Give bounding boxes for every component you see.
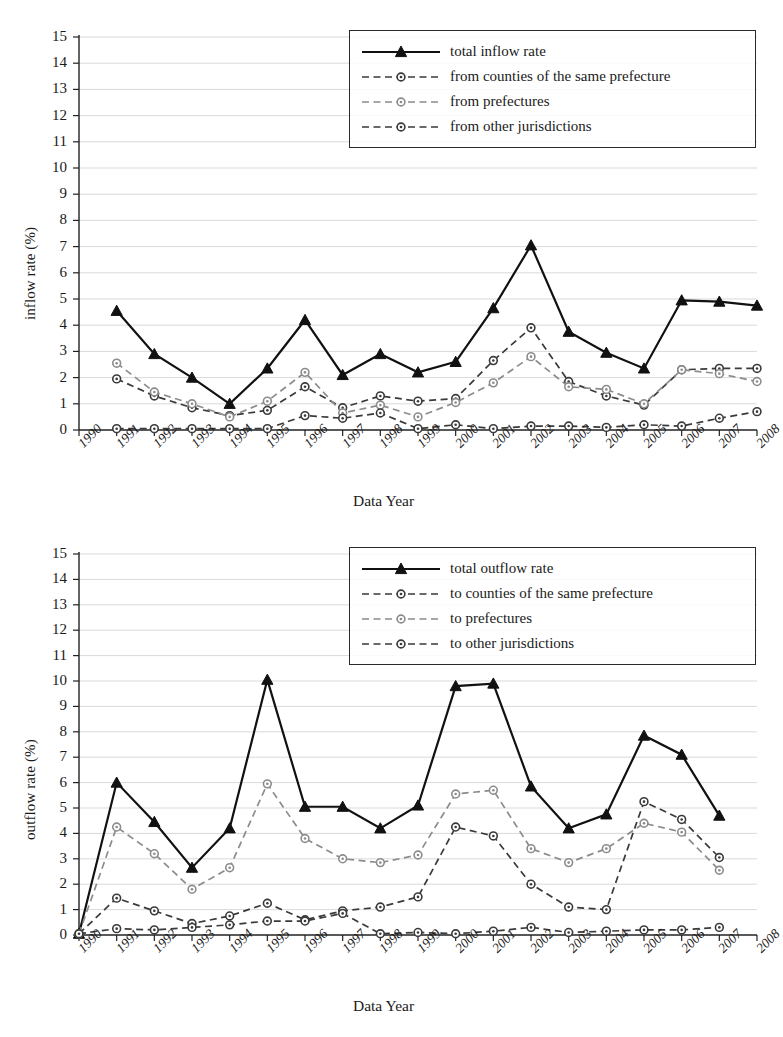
legend-inflow: total inflow ratefrom counties of the sa… xyxy=(349,30,756,148)
y-tick-label: 11 xyxy=(33,648,67,663)
y-tick-label: 0 xyxy=(33,422,67,437)
x-axis-title: Data Year xyxy=(0,997,767,1015)
y-tick-label: 3 xyxy=(33,343,67,358)
series-inflow-1 xyxy=(113,324,761,420)
legend-item: from other jurisdictions xyxy=(358,114,755,139)
y-tick-label: 2 xyxy=(33,370,67,385)
y-axis-title: inflow rate (%) xyxy=(22,227,39,320)
y-tick-label: 9 xyxy=(33,186,67,201)
legend-item-label: to other jurisdictions xyxy=(444,635,574,652)
y-tick-label: 15 xyxy=(33,546,67,561)
y-tick-label: 10 xyxy=(33,673,67,688)
y-tick-label: 8 xyxy=(33,724,67,739)
y-tick-label: 13 xyxy=(33,597,67,612)
legend-item: from prefectures xyxy=(358,89,755,114)
legend-item: from counties of the same prefecture xyxy=(358,64,755,89)
legend-item-label: to counties of the same prefecture xyxy=(444,585,653,602)
y-tick-label: 1 xyxy=(33,902,67,917)
legend-marker-icon xyxy=(358,42,444,62)
legend-item-label: from counties of the same prefecture xyxy=(444,68,670,85)
y-tick-label: 8 xyxy=(33,212,67,227)
legend-item: to prefectures xyxy=(358,606,755,631)
legend-item-label: to prefectures xyxy=(444,610,532,627)
y-tick-label: 3 xyxy=(33,851,67,866)
chart-panel-inflow: 0123456789101112131415199019911992199319… xyxy=(0,0,767,520)
series-outflow-1 xyxy=(75,798,723,938)
y-tick-label: 1 xyxy=(33,396,67,411)
legend-marker-icon xyxy=(358,117,444,137)
legend-item: total outflow rate xyxy=(358,556,755,581)
legend-item-label: from other jurisdictions xyxy=(444,118,592,135)
legend-marker-icon xyxy=(358,92,444,112)
legend-outflow: total outflow rateto counties of the sam… xyxy=(349,547,756,665)
legend-marker-icon xyxy=(358,584,444,604)
legend-marker-icon xyxy=(358,559,444,579)
y-tick-label: 12 xyxy=(33,622,67,637)
y-tick-label: 12 xyxy=(33,108,67,123)
legend-marker-icon xyxy=(358,67,444,87)
y-tick-label: 14 xyxy=(33,571,67,586)
legend-item: to counties of the same prefecture xyxy=(358,581,755,606)
legend-marker-icon xyxy=(358,634,444,654)
legend-marker-icon xyxy=(358,609,444,629)
y-axis-title: outflow rate (%) xyxy=(22,739,39,840)
legend-item: to other jurisdictions xyxy=(358,631,755,656)
chart-panel-outflow: 0123456789101112131415199019911992199319… xyxy=(0,517,767,1037)
y-tick-label: 15 xyxy=(33,29,67,44)
legend-item-label: from prefectures xyxy=(444,93,550,110)
y-tick-label: 10 xyxy=(33,160,67,175)
legend-item-label: total inflow rate xyxy=(444,43,546,60)
y-tick-label: 11 xyxy=(33,134,67,149)
legend-item-label: total outflow rate xyxy=(444,560,553,577)
series-outflow-0 xyxy=(73,674,725,938)
y-tick-label: 0 xyxy=(33,927,67,942)
y-tick-label: 14 xyxy=(33,55,67,70)
legend-item: total inflow rate xyxy=(358,39,755,64)
y-tick-label: 9 xyxy=(33,698,67,713)
x-axis-title: Data Year xyxy=(0,492,767,510)
series-inflow-0 xyxy=(111,240,763,409)
y-tick-label: 13 xyxy=(33,81,67,96)
y-tick-label: 2 xyxy=(33,876,67,891)
